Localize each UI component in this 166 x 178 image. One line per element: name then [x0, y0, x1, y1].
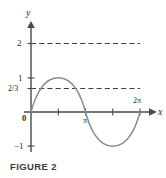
x-axis-arrowhead [149, 108, 157, 116]
x-tick-label-pi: π [83, 117, 87, 125]
figure-container: y x 2 1 2/3 −1 0 π 2π FIGURE 2 [0, 0, 166, 178]
plot-canvas [0, 0, 166, 178]
y-tick-label-1: 1 [18, 74, 23, 83]
y-tick-label-2: 2 [17, 39, 22, 48]
y-axis-label: y [26, 8, 30, 18]
x-tick-label-2pi: 2π [133, 97, 141, 105]
origin-label: 0 [22, 114, 26, 123]
x-axis-label: x [158, 107, 162, 117]
y-axis-arrowhead [27, 21, 35, 28]
y-tick-label-two-thirds: 2/3 [8, 85, 18, 93]
y-tick-label-minus-1: −1 [14, 142, 24, 151]
figure-caption: FIGURE 2 [10, 161, 57, 172]
